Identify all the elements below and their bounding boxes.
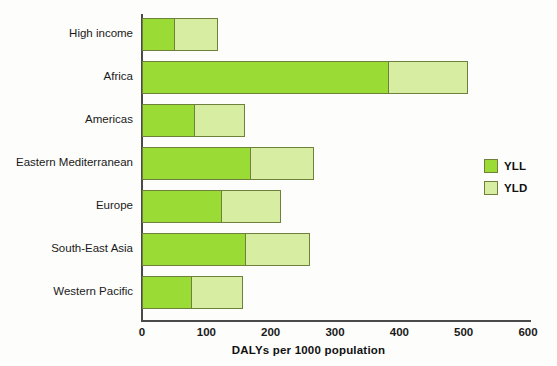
bar-segment-yld [174,18,218,51]
bar-segment-yll [142,61,389,94]
bar-segment-yld [388,61,468,94]
bar-high-income [142,18,218,51]
bar-europe [142,190,281,223]
category-label: Americas [0,113,133,125]
bar-africa [142,61,468,94]
category-label: Western Pacific [0,285,133,297]
category-label: Europe [0,199,133,211]
bar-segment-yld [221,190,280,223]
x-tick-label: 300 [325,326,344,338]
bar-eastern-mediterranean [142,147,314,180]
bar-segment-yld [191,276,242,309]
bar-segment-yld [194,104,244,137]
legend-label: YLL [504,160,526,172]
legend-label: YLD [504,182,528,194]
x-axis-title-text: DALYs per 1000 population [232,344,385,356]
bar-segment-yll [142,190,222,223]
bar-segment-yld [250,147,314,180]
category-label: High income [0,27,133,39]
chart-container: High incomeAfricaAmericasEastern Mediter… [0,0,557,366]
category-label: Africa [0,70,133,82]
x-tick-label: 100 [197,326,216,338]
x-tick-label: 200 [261,326,280,338]
legend: YLLYLD [484,156,528,200]
x-axis-line [141,320,531,322]
bar-south-east-asia [142,233,310,266]
bar-segment-yll [142,104,195,137]
legend-item-yld[interactable]: YLD [484,178,528,197]
x-tick-label: 600 [518,326,537,338]
x-tick-label: 500 [454,326,473,338]
x-axis-title: DALYs per 1000 population [0,344,557,356]
legend-swatch-icon [484,181,498,195]
legend-swatch-icon [484,159,498,173]
x-tick-label: 400 [390,326,409,338]
bar-segment-yll [142,276,192,309]
category-label: Eastern Mediterranean [0,156,133,168]
bar-western-pacific [142,276,243,309]
bar-americas [142,104,245,137]
legend-item-yll[interactable]: YLL [484,156,528,175]
x-tick-label: 0 [139,326,145,338]
bar-segment-yll [142,147,251,180]
category-label: South-East Asia [0,242,133,254]
bar-segment-yld [245,233,310,266]
bar-segment-yll [142,18,175,51]
bar-segment-yll [142,233,246,266]
